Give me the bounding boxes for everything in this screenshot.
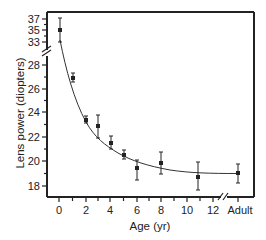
- point-age-5: [122, 150, 126, 159]
- svg-text:28: 28: [28, 59, 40, 71]
- svg-text:10: 10: [181, 204, 193, 216]
- y-tick-labels: 37 35 33 28 26 24 22 20 18: [28, 13, 40, 192]
- lens-power-chart: 37 35 33 28 26 24 22 20 18 0 2 4 6 8 10 …: [0, 0, 266, 240]
- point-age-2: [84, 116, 88, 123]
- fitted-curve: [60, 40, 238, 174]
- point-age-8: [159, 152, 163, 174]
- svg-text:24: 24: [28, 106, 40, 118]
- point-age-1: [71, 73, 75, 82]
- point-age-6: [135, 160, 139, 180]
- point-adult: [236, 164, 240, 183]
- data-points: [58, 18, 240, 190]
- svg-text:22: 22: [28, 131, 40, 143]
- svg-text:Adult: Adult: [227, 204, 252, 216]
- svg-text:4: 4: [107, 204, 113, 216]
- point-age-11: [196, 162, 200, 190]
- x-axis-label: Age (yr): [130, 220, 171, 232]
- x-tick-labels: 0 2 4 6 8 10 12 Adult: [56, 204, 253, 216]
- svg-text:33: 33: [28, 36, 40, 48]
- svg-text:35: 35: [28, 24, 40, 36]
- svg-text:12: 12: [207, 204, 219, 216]
- svg-text:8: 8: [158, 204, 164, 216]
- svg-text:6: 6: [134, 204, 140, 216]
- y-axis-label: Lens power (diopters): [14, 57, 26, 168]
- svg-text:20: 20: [28, 155, 40, 167]
- point-age-3: [96, 115, 100, 138]
- svg-text:18: 18: [28, 180, 40, 192]
- point-age-0: [58, 18, 62, 42]
- svg-text:2: 2: [83, 204, 89, 216]
- svg-text:0: 0: [56, 204, 62, 216]
- svg-text:26: 26: [28, 83, 40, 95]
